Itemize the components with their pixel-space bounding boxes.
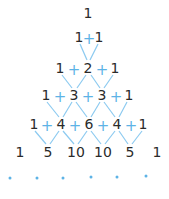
plus-icon: + bbox=[110, 90, 123, 105]
plus-icon: + bbox=[125, 119, 138, 134]
row6-value: 1 bbox=[153, 145, 162, 159]
row2-value: 1 bbox=[95, 30, 104, 44]
plus-icon: + bbox=[83, 32, 96, 47]
row4-value: 1 bbox=[42, 88, 51, 102]
continuation-dot-icon bbox=[62, 177, 65, 180]
plus-icon: + bbox=[97, 119, 110, 134]
continuation-dot-icon bbox=[9, 177, 12, 180]
row5-value: 4 bbox=[57, 117, 66, 131]
continuation-dot-icon bbox=[116, 176, 119, 179]
row6-value: 5 bbox=[126, 145, 135, 159]
row5-value: 4 bbox=[113, 117, 122, 131]
row6-value: 10 bbox=[67, 145, 85, 159]
plus-icon: + bbox=[96, 63, 109, 78]
row6-value: 1 bbox=[16, 145, 25, 159]
row3-value: 1 bbox=[56, 61, 65, 75]
plus-icon: + bbox=[54, 90, 67, 105]
row5-value: 1 bbox=[30, 117, 39, 131]
row5-value: 6 bbox=[85, 117, 94, 131]
plus-icon: + bbox=[68, 63, 81, 78]
plus-icon: + bbox=[82, 90, 95, 105]
plus-icon: + bbox=[69, 119, 82, 134]
row4-value: 3 bbox=[98, 88, 107, 102]
continuation-dot-icon bbox=[90, 176, 93, 179]
continuation-dot-icon bbox=[145, 175, 148, 178]
plus-icon: + bbox=[41, 119, 54, 134]
row5-value: 1 bbox=[139, 117, 148, 131]
row3-value: 2 bbox=[84, 61, 93, 75]
row6-value: 5 bbox=[44, 145, 53, 159]
row4-value: 1 bbox=[125, 88, 134, 102]
row1-value: 1 bbox=[84, 6, 93, 20]
row6-value: 10 bbox=[94, 145, 112, 159]
row4-value: 3 bbox=[70, 88, 79, 102]
continuation-dot-icon bbox=[36, 177, 39, 180]
row3-value: 1 bbox=[111, 61, 120, 75]
